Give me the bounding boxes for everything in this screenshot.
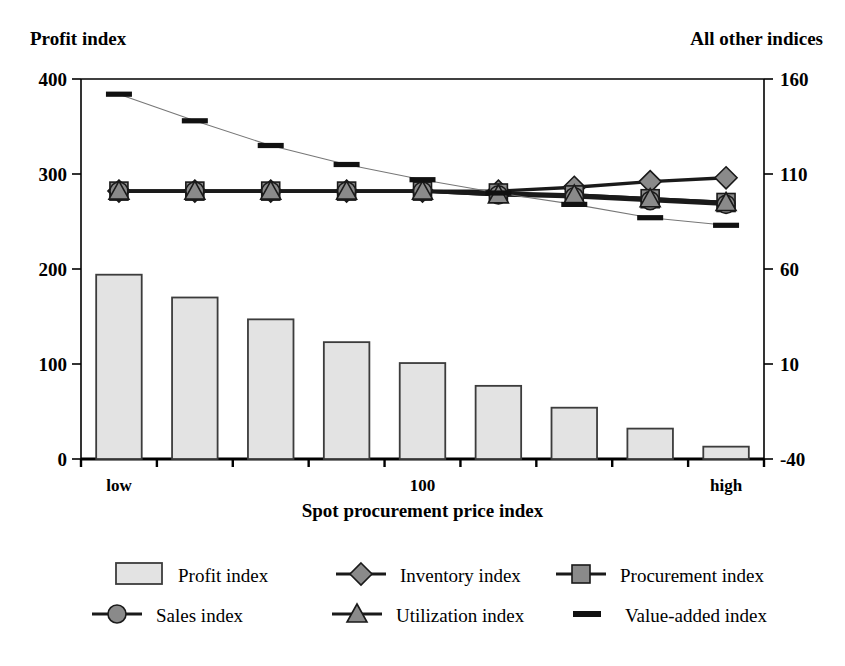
bar xyxy=(552,408,598,459)
chart-page: Profit index All other indices 010020030… xyxy=(0,0,845,666)
marker-diamond xyxy=(350,563,372,585)
legend-swatch-dash xyxy=(573,611,601,617)
x-tick-label: 100 xyxy=(410,476,436,495)
x-tick-label: low xyxy=(106,476,132,495)
marker-dash xyxy=(258,143,284,148)
bar xyxy=(248,319,294,459)
combo-chart: 0100200300400-401060110160low100highProf… xyxy=(0,0,845,666)
y-tick-label-right: 160 xyxy=(780,69,809,90)
marker-dash xyxy=(410,177,436,182)
legend-label: Procurement index xyxy=(620,565,765,586)
legend-label: Sales index xyxy=(156,605,244,626)
marker-dash xyxy=(182,118,208,123)
legend-swatch-bar xyxy=(116,563,162,584)
bar xyxy=(324,342,370,459)
bar xyxy=(96,275,142,459)
legend-label: Inventory index xyxy=(400,565,521,586)
marker-diamond xyxy=(715,167,737,189)
y-tick-label-left: 0 xyxy=(58,449,68,470)
bar xyxy=(627,429,673,459)
y-tick-label-left: 200 xyxy=(39,259,68,280)
x-axis-title: Spot procurement price index xyxy=(0,500,845,522)
marker-dash xyxy=(637,215,663,220)
series-line-dash xyxy=(119,94,726,225)
y-tick-label-right: -40 xyxy=(780,449,805,470)
marker-dash xyxy=(334,162,360,167)
legend-label: Utilization index xyxy=(396,605,525,626)
marker-square xyxy=(572,565,590,583)
bar xyxy=(703,447,749,459)
marker-dash xyxy=(485,190,511,195)
marker-dash xyxy=(561,202,587,207)
y-tick-label-left: 100 xyxy=(39,354,68,375)
marker-circle xyxy=(108,605,126,623)
legend-label: Value-added index xyxy=(625,605,767,626)
marker-dash xyxy=(106,92,132,97)
x-tick-label: high xyxy=(710,476,743,495)
y-tick-label-left: 300 xyxy=(39,164,68,185)
bar xyxy=(476,386,522,459)
y-tick-label-left: 400 xyxy=(39,69,68,90)
y-tick-label-right: 10 xyxy=(780,354,799,375)
bar xyxy=(400,363,446,459)
bar xyxy=(172,298,218,460)
marker-dash xyxy=(713,223,739,228)
legend-label: Profit index xyxy=(178,565,269,586)
y-tick-label-right: 60 xyxy=(780,259,799,280)
y-tick-label-right: 110 xyxy=(780,164,807,185)
